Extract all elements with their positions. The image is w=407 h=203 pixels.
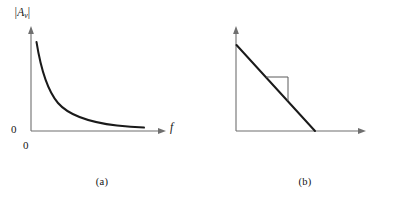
panel-b: Av,dB 0 dB f (log) −20 dB/Dekade fu = 1 … — [203, 0, 407, 203]
panel-b-slope-line — [237, 45, 316, 131]
panel-a-x-axis-label: f — [170, 122, 173, 134]
panel-b-x-axis — [236, 128, 366, 134]
panel-a-decay-curve — [37, 42, 145, 128]
panel-a-y-axis-label: |Av| — [14, 7, 30, 20]
panel-b-caption: (b) — [203, 176, 407, 187]
panel-a-caption: (a) — [0, 176, 204, 187]
panel-a-origin-label-x: 0 — [23, 140, 29, 151]
figure-pair: |Av| 0 0 f (a) Av,dB 0 — [0, 0, 407, 203]
panel-b-plot — [203, 0, 407, 203]
panel-a-origin-label-y: 0 — [11, 124, 17, 135]
panel-a-y-axis — [28, 26, 34, 131]
panel-a: |Av| 0 0 f (a) — [0, 0, 204, 203]
panel-b-y-axis — [233, 26, 239, 131]
panel-a-x-axis — [31, 128, 166, 134]
panel-a-plot — [0, 0, 204, 203]
